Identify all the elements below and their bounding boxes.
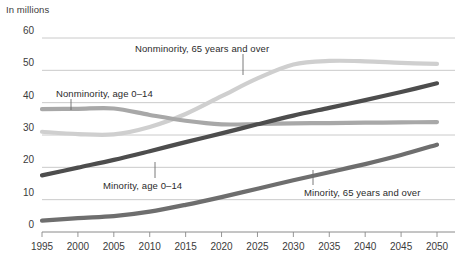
x-tick-label-1995: 1995 xyxy=(22,241,62,252)
x-tick-label-2030: 2030 xyxy=(273,241,313,252)
x-tick-label-2025: 2025 xyxy=(237,241,277,252)
series-label-nonminority-65-over: Nonminority, 65 years and over xyxy=(135,43,269,54)
x-tick-label-2000: 2000 xyxy=(58,241,98,252)
x-tick-label-2010: 2010 xyxy=(130,241,170,252)
y-tick-label-10: 10 xyxy=(4,187,34,198)
chart-canvas xyxy=(0,0,462,266)
series-line-minority-65-years-and-over xyxy=(42,145,437,221)
y-tick-label-20: 20 xyxy=(4,154,34,165)
y-tick-label-60: 60 xyxy=(4,25,34,36)
x-tick-label-2005: 2005 xyxy=(94,241,134,252)
series-line-nonminority-age-0-14 xyxy=(42,108,437,124)
series-label-minority-0-14: Minority, age 0–14 xyxy=(103,180,182,191)
series-label-minority-65-over: Minority, 65 years and over xyxy=(304,187,420,198)
x-tick-label-2050: 2050 xyxy=(417,241,457,252)
y-tick-label-0: 0 xyxy=(4,219,34,230)
x-tick-label-2040: 2040 xyxy=(345,241,385,252)
y-tick-label-40: 40 xyxy=(4,90,34,101)
x-axis-ticks xyxy=(42,232,437,237)
x-tick-label-2045: 2045 xyxy=(381,241,421,252)
x-tick-label-2015: 2015 xyxy=(166,241,206,252)
x-tick-label-2020: 2020 xyxy=(202,241,242,252)
y-tick-label-50: 50 xyxy=(4,57,34,68)
chart-figure: In millions 6050403020100 19952000200520… xyxy=(0,0,462,266)
x-tick-label-2035: 2035 xyxy=(309,241,349,252)
series-label-nonminority-0-14: Nonminority, age 0–14 xyxy=(56,88,153,99)
y-tick-label-30: 30 xyxy=(4,122,34,133)
